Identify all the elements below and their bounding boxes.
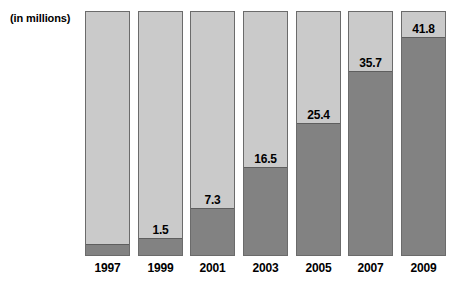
bar-group: 1.51999 xyxy=(138,11,183,256)
bar-group: 1997 xyxy=(85,11,130,256)
x-axis-tick-label: 2009 xyxy=(401,261,446,275)
bar-fill xyxy=(402,37,445,255)
x-axis-tick-label: 2005 xyxy=(296,261,341,275)
bar-track xyxy=(401,11,446,256)
bar-fill xyxy=(191,208,234,255)
bar-value-label: 1.5 xyxy=(138,223,183,237)
x-axis-tick-label: 2007 xyxy=(348,261,393,275)
bar-group: 16.52003 xyxy=(243,11,288,256)
bar-group: 35.72007 xyxy=(348,11,393,256)
bar-track xyxy=(85,11,130,256)
x-axis-tick-label: 2001 xyxy=(190,261,235,275)
x-axis-tick-label: 1997 xyxy=(85,261,130,275)
bar-fill xyxy=(297,123,340,255)
bar-value-label: 25.4 xyxy=(296,108,341,122)
bar-group: 25.42005 xyxy=(296,11,341,256)
bar-track xyxy=(296,11,341,256)
bar-value-label: 7.3 xyxy=(190,193,235,207)
bar-track xyxy=(138,11,183,256)
bar-value-label: 35.7 xyxy=(348,56,393,70)
bar-fill xyxy=(139,238,182,255)
bar-fill xyxy=(349,71,392,255)
bar-track xyxy=(190,11,235,256)
bar-fill xyxy=(244,167,287,255)
bar-group: 41.82009 xyxy=(401,11,446,256)
bar-track xyxy=(243,11,288,256)
units-label: (in millions) xyxy=(10,12,70,24)
bar-group: 7.32001 xyxy=(190,11,235,256)
x-axis-tick-label: 1999 xyxy=(138,261,183,275)
bar-value-label: 16.5 xyxy=(243,152,288,166)
bar-fill xyxy=(86,244,129,255)
x-axis-tick-label: 2003 xyxy=(243,261,288,275)
bar-track xyxy=(348,11,393,256)
bar-chart: (in millions) 19971.519997.3200116.52003… xyxy=(0,0,455,288)
bar-value-label: 41.8 xyxy=(401,22,446,36)
plot-area: 19971.519997.3200116.5200325.4200535.720… xyxy=(85,11,446,256)
